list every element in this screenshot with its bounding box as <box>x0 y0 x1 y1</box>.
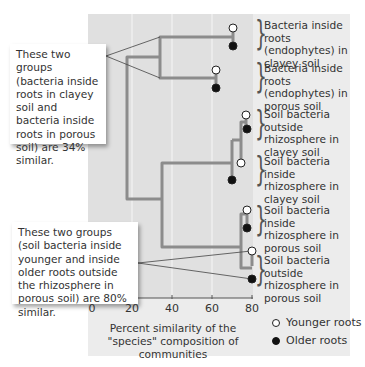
legend-label-younger: Younger roots <box>286 316 362 329</box>
leaf-label-outside-rhizosphere-porous: Soil bacteria outside rhizosphere in por… <box>264 254 352 304</box>
leaf-label-endophytes-porous: Bacteria inside roots (endophytes) in po… <box>264 62 354 112</box>
tick-label-80: 80 <box>240 302 264 315</box>
leaf-label-outside-rhizosphere-clayey: Soil bacteria outside rhizosphere in cla… <box>264 108 352 158</box>
tick-label-20: 20 <box>120 302 144 315</box>
legend-item-younger: Younger roots <box>272 316 362 329</box>
younger-dot <box>243 206 251 214</box>
tick-label-60: 60 <box>200 302 224 315</box>
dendrogram-branches <box>127 30 252 268</box>
younger-dot <box>229 24 237 32</box>
younger-dot <box>237 159 245 167</box>
legend-item-older: Older roots <box>272 334 347 347</box>
older-dot <box>212 84 220 92</box>
callout-80-percent: These two groups (soil bacteria inside y… <box>12 222 138 304</box>
callout-34-percent: These two groups (bacteria inside roots … <box>10 44 106 144</box>
leaf-label-inside-rhizosphere-clayey: Soil bacteria inside rhizosphere in clay… <box>264 155 352 205</box>
older-dot <box>228 176 236 184</box>
tick-label-40: 40 <box>160 302 184 315</box>
younger-dot <box>212 66 220 74</box>
leaf-dots <box>212 24 256 283</box>
younger-dot <box>242 111 250 119</box>
legend-label-older: Older roots <box>286 334 347 347</box>
older-dot <box>243 224 251 232</box>
filled-circle-icon <box>272 337 280 345</box>
older-dot <box>229 42 237 50</box>
older-dot <box>243 125 251 133</box>
x-axis-title: Percent similarity of the "species" comp… <box>88 322 258 361</box>
open-circle-icon <box>272 319 280 327</box>
tick-label-0: 0 <box>80 302 104 315</box>
leaf-label-inside-rhizosphere-porous: Soil bacteria inside rhizosphere in poro… <box>264 204 352 254</box>
